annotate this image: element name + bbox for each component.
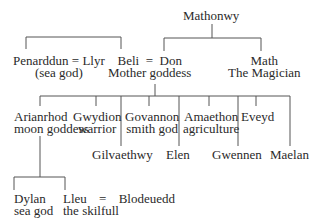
label-the-magician: The Magician: [228, 67, 301, 79]
node-mathonwy: Mathonwy: [183, 10, 239, 22]
node-gwennen: Gwennen: [212, 149, 262, 161]
node-dylan: Dylan sea god: [14, 193, 53, 217]
label-smith-god: smith god: [125, 123, 179, 135]
node-penarddun-llyr: Penarddun = Llyr (sea god): [13, 55, 105, 79]
label-mother-goddess: Mother goddess: [108, 67, 191, 79]
node-govannon: Govannon smith god: [125, 111, 179, 135]
label-sea-god-dylan: sea god: [14, 205, 53, 217]
node-eveyd: Eveyd: [241, 111, 274, 123]
label-sea-god: (sea god): [13, 67, 105, 79]
node-gilvaethwy: Gilvaethwy: [92, 149, 153, 161]
node-math: Math The Magician: [228, 55, 301, 79]
label-warrior: warrior: [73, 123, 121, 135]
label-agriculture: agriculture: [183, 123, 239, 135]
node-beli-don: Beli = Don Mother goddess: [108, 55, 191, 79]
node-maelan: Maelan: [270, 149, 309, 161]
node-elen: Elen: [166, 149, 190, 161]
label-blodeuedd: Blodeuedd: [119, 191, 175, 206]
node-lleu-blodeuedd: Lleu = Blodeuedd the skilfull: [63, 193, 175, 217]
node-gwydion: Gwydion warrior: [73, 111, 121, 135]
node-amaethon: Amaethon agriculture: [183, 111, 239, 135]
label-the-skilfull: the skilfull: [63, 205, 175, 217]
